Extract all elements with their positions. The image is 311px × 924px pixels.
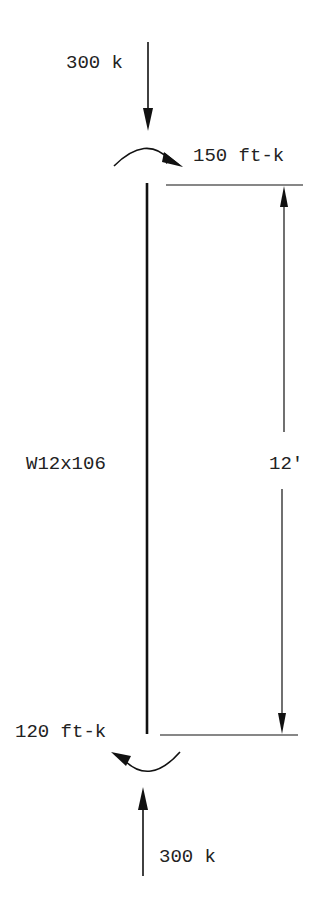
top-moment-label: 150 ft-k: [193, 145, 284, 167]
top-axial-load-arrow: [143, 42, 153, 131]
bottom-axial-load-arrow: [138, 787, 148, 876]
top-axial-load-label: 300 k: [66, 52, 123, 74]
bottom-moment-arrow: [111, 752, 180, 771]
column-diagram: 300 k 150 ft-k W12x106 12' 120 ft-k 300 …: [0, 0, 311, 924]
member-section-label: W12x106: [26, 453, 106, 475]
length-dimension-label: 12': [269, 453, 303, 475]
bottom-moment-label: 120 ft-k: [15, 721, 106, 743]
top-moment-arrow: [114, 148, 183, 167]
bottom-axial-load-label: 300 k: [159, 846, 216, 868]
